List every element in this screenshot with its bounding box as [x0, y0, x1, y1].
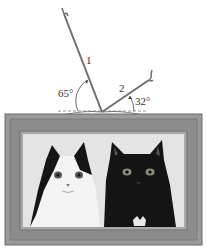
cord-1-label: 1: [86, 54, 92, 66]
diagram-canvas: 1 2 65° 32°: [0, 0, 207, 249]
angle-2-label: 32°: [135, 95, 150, 107]
angle-1-label: 65°: [58, 87, 73, 99]
angle-arc-65: [76, 80, 88, 111]
cord-2-label: 2: [119, 82, 125, 94]
